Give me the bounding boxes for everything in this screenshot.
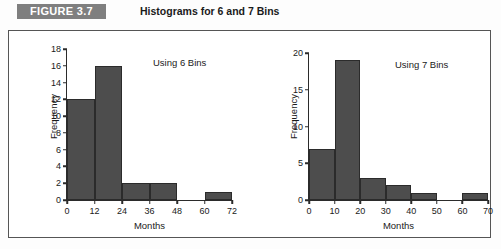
- y-tick-label: 8: [56, 128, 67, 137]
- bar: [150, 183, 178, 200]
- plot-area-6-bins: Using 6 Bins Months Frequency 0246810121…: [66, 49, 232, 201]
- x-tick-label: 40: [406, 207, 416, 216]
- y-tick-label: 10: [51, 112, 67, 121]
- figure-title: Histograms for 6 and 7 Bins: [140, 4, 279, 19]
- annotation-using-6-bins: Using 6 Bins: [153, 57, 206, 68]
- x-axis-title-6-bins: Months: [67, 220, 232, 231]
- bar: [335, 60, 361, 200]
- y-tick-label: 5: [298, 159, 309, 168]
- x-tick-mark: [204, 200, 206, 204]
- bar: [411, 193, 437, 200]
- x-tick-mark: [176, 200, 178, 204]
- x-tick-label: 30: [381, 207, 391, 216]
- x-tick-label: 48: [172, 207, 182, 216]
- x-tick-mark: [385, 200, 387, 204]
- x-tick-mark: [121, 200, 123, 204]
- figure-panel: Using 6 Bins Months Frequency 0246810121…: [8, 30, 491, 238]
- x-tick-mark: [462, 200, 464, 204]
- x-tick-label: 10: [330, 207, 340, 216]
- x-tick-label: 50: [432, 207, 442, 216]
- bar: [386, 185, 412, 200]
- x-tick-label: 60: [457, 207, 467, 216]
- y-tick-label: 14: [51, 78, 67, 87]
- bar: [360, 178, 386, 200]
- bar: [462, 193, 488, 200]
- x-tick-label: 24: [117, 207, 127, 216]
- y-tick-label: 10: [293, 122, 309, 131]
- y-tick-label: 16: [51, 61, 67, 70]
- x-tick-label: 12: [89, 207, 99, 216]
- figure-header: FIGURE 3.7 Histograms for 6 and 7 Bins: [0, 0, 501, 28]
- y-tick-label: 18: [51, 45, 67, 54]
- x-tick-mark: [436, 200, 438, 204]
- bars-6-bins: [67, 49, 232, 200]
- x-tick-mark: [487, 200, 489, 204]
- x-tick-label: 60: [199, 207, 209, 216]
- x-tick-mark: [231, 200, 233, 204]
- plot-area-7-bins: Using 7 Bins Months Frequency 0510152001…: [308, 53, 488, 201]
- y-tick-label: 20: [293, 49, 309, 58]
- y-tick-label: 4: [56, 162, 67, 171]
- x-tick-mark: [149, 200, 151, 204]
- annotation-using-7-bins: Using 7 Bins: [395, 59, 448, 70]
- figure-number-badge: FIGURE 3.7: [17, 4, 106, 19]
- x-tick-mark: [66, 200, 68, 204]
- x-tick-mark: [411, 200, 413, 204]
- bar: [67, 99, 95, 200]
- bars-7-bins: [309, 53, 488, 200]
- x-tick-mark: [308, 200, 310, 204]
- x-tick-label: 70: [483, 207, 493, 216]
- x-tick-mark: [94, 200, 96, 204]
- x-tick-mark: [334, 200, 336, 204]
- bar: [205, 192, 233, 200]
- x-tick-label: 0: [306, 207, 311, 216]
- x-axis-title-7-bins: Months: [309, 220, 488, 231]
- y-tick-label: 6: [56, 145, 67, 154]
- y-tick-label: 15: [293, 85, 309, 94]
- histogram-7-bins: Using 7 Bins Months Frequency 0510152001…: [257, 31, 492, 239]
- x-tick-label: 36: [144, 207, 154, 216]
- x-tick-mark: [359, 200, 361, 204]
- y-axis-title-7-bins: Frequency: [288, 94, 299, 139]
- y-tick-label: 12: [51, 95, 67, 104]
- x-tick-label: 20: [355, 207, 365, 216]
- bar: [95, 66, 123, 200]
- x-tick-label: 72: [227, 207, 237, 216]
- x-tick-label: 0: [64, 207, 69, 216]
- bar: [122, 183, 150, 200]
- histogram-6-bins: Using 6 Bins Months Frequency 0246810121…: [13, 31, 253, 239]
- y-tick-label: 2: [56, 179, 67, 188]
- bar: [309, 149, 335, 200]
